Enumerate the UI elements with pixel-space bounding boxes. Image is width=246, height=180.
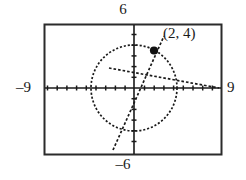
axis-label-y-max: 6	[0, 2, 246, 17]
graph-figure: 6 –6 –9 9 (2, 4)	[0, 0, 246, 180]
axis-label-x-min: –9	[16, 80, 31, 95]
tangent-point-label: (2, 4)	[163, 26, 196, 41]
calculator-window-frame	[45, 25, 222, 155]
axis-label-y-min: –6	[0, 157, 246, 172]
plot-canvas	[0, 0, 246, 180]
axis-label-x-max: 9	[227, 80, 235, 95]
tangent-point-marker	[150, 46, 158, 54]
